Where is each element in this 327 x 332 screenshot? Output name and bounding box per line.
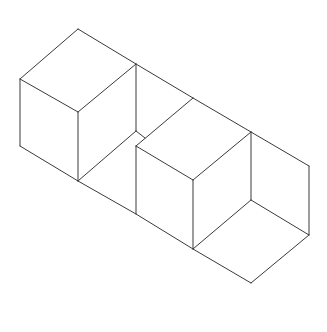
edge-line [251, 132, 309, 166]
edge-line [78, 131, 136, 181]
edge-line [193, 132, 251, 180]
edge-line [251, 235, 309, 283]
left-cube [20, 29, 136, 181]
edge-line [193, 98, 251, 132]
isometric-cubes-diagram [0, 0, 327, 332]
edge-line [20, 79, 78, 112]
edge-line [78, 181, 136, 214]
edge-line [136, 214, 193, 249]
edge-line [193, 200, 251, 249]
edge-line [20, 146, 78, 181]
edge-line [251, 200, 309, 235]
edge-line [20, 29, 78, 79]
edge-line [136, 64, 193, 98]
edge-line [78, 64, 136, 112]
edge-line [136, 131, 145, 138]
front-cube [136, 98, 251, 249]
edge-line [78, 29, 136, 64]
edge-line [193, 249, 251, 283]
edge-line [136, 146, 193, 180]
diagram-edges [20, 29, 309, 283]
edge-line [136, 98, 193, 146]
